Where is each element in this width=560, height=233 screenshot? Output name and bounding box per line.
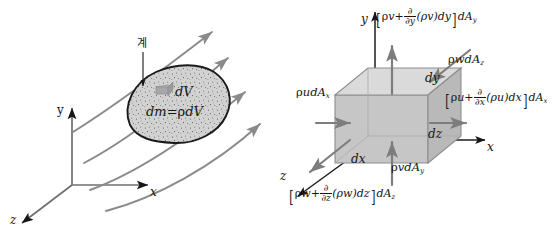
flux-out-y-label: [ρv+∂∂y(ρv)dy]dAy (375, 7, 477, 29)
control-volume-cube (335, 68, 461, 163)
flux-out-y-derivative: ∂∂y (404, 7, 416, 26)
flux-out-x-area-sub: x (543, 97, 547, 105)
flux-in-z-label: ρwdAz (448, 54, 484, 66)
flux-in-z-area: dA (465, 52, 481, 66)
dv-element-front (156, 87, 168, 94)
flux-out-y-d-num: ∂ (404, 7, 416, 16)
system-callout-label: 계 (137, 38, 147, 49)
cube-front-face (335, 95, 428, 163)
flux-out-y-area-sub: y (473, 16, 477, 24)
flux-out-x-d-num: ∂ (474, 88, 486, 97)
flux-out-z-d-den: ∂z (320, 193, 331, 203)
flux-in-x-label: ρudAx (296, 87, 330, 99)
flux-in-z-vel: w (455, 52, 465, 66)
flux-out-x-area: dA (528, 91, 543, 104)
flux-out-z-derivative: ∂∂z (320, 184, 331, 203)
flux-out-x-group: (ρu)dx (486, 91, 521, 104)
flux-in-y-rho: ρ (391, 160, 398, 174)
left-axis-y-label: y (57, 104, 64, 116)
figure-root: y x z 계 dV dm=ρdV (0, 0, 560, 233)
flux-out-y-d-den: ∂y (404, 16, 416, 26)
flux-in-x-rho: ρ (296, 85, 303, 99)
flux-out-z-label: [ρw+∂∂z(ρw)dz]dAz (288, 184, 395, 206)
flux-in-y-area-sub: y (420, 166, 424, 175)
flux-out-y-close: ] (452, 12, 456, 29)
edge-label-dz: dz (428, 128, 442, 140)
flux-out-y-area: dA (458, 10, 473, 23)
edge-label-dy: dy (425, 72, 439, 84)
flux-out-y-open: [ (376, 12, 380, 29)
flux-out-x-label: [ρu+∂∂x(ρu)dx]dAx (444, 88, 547, 110)
dv-label: dV (175, 85, 193, 98)
flux-out-x-d-den: ∂x (474, 97, 486, 107)
flux-out-x-derivative: ∂∂x (474, 88, 486, 107)
flux-out-z-open: [ (289, 189, 293, 206)
right-axis-x-label: x (487, 141, 494, 153)
flux-in-y-area: dA (404, 160, 420, 174)
flux-in-x-area: dA (310, 85, 326, 99)
flux-out-y-plus: + (394, 10, 403, 23)
right-axis-y-label: y (361, 13, 368, 25)
dm-dv: dV (185, 104, 203, 119)
flux-in-z-area-sub: z (480, 58, 484, 67)
flux-in-y-label: ρvdAy (391, 162, 424, 174)
left-axis-x-label: x (150, 186, 157, 198)
flux-out-y-group: (ρv)dy (416, 10, 451, 23)
right-axis-z-label: z (280, 170, 286, 182)
flux-out-z-plus: + (311, 187, 320, 200)
flux-out-x-plus: + (464, 91, 473, 104)
left-panel-graphic (0, 0, 280, 233)
dm-label: dm=ρdV (146, 105, 203, 118)
left-axis-z-label: z (10, 214, 16, 226)
left-axis-z (22, 185, 72, 223)
flux-out-x-open: [ (445, 93, 449, 110)
edge-label-dx: dx (351, 153, 365, 165)
flux-out-z-vel: w (301, 187, 310, 200)
flux-in-z-rho: ρ (448, 52, 455, 66)
flux-out-x-close: ] (523, 93, 527, 110)
flux-out-z-area-sub: z (391, 193, 395, 201)
flux-out-z-group: (ρw)dz (332, 187, 369, 200)
dm-lhs: dm= (146, 104, 178, 119)
flux-out-z-close: ] (371, 189, 375, 206)
flux-out-z-d-num: ∂ (320, 184, 331, 193)
flux-in-x-area-sub: x (326, 91, 330, 100)
flux-out-z-area: dA (376, 187, 391, 200)
